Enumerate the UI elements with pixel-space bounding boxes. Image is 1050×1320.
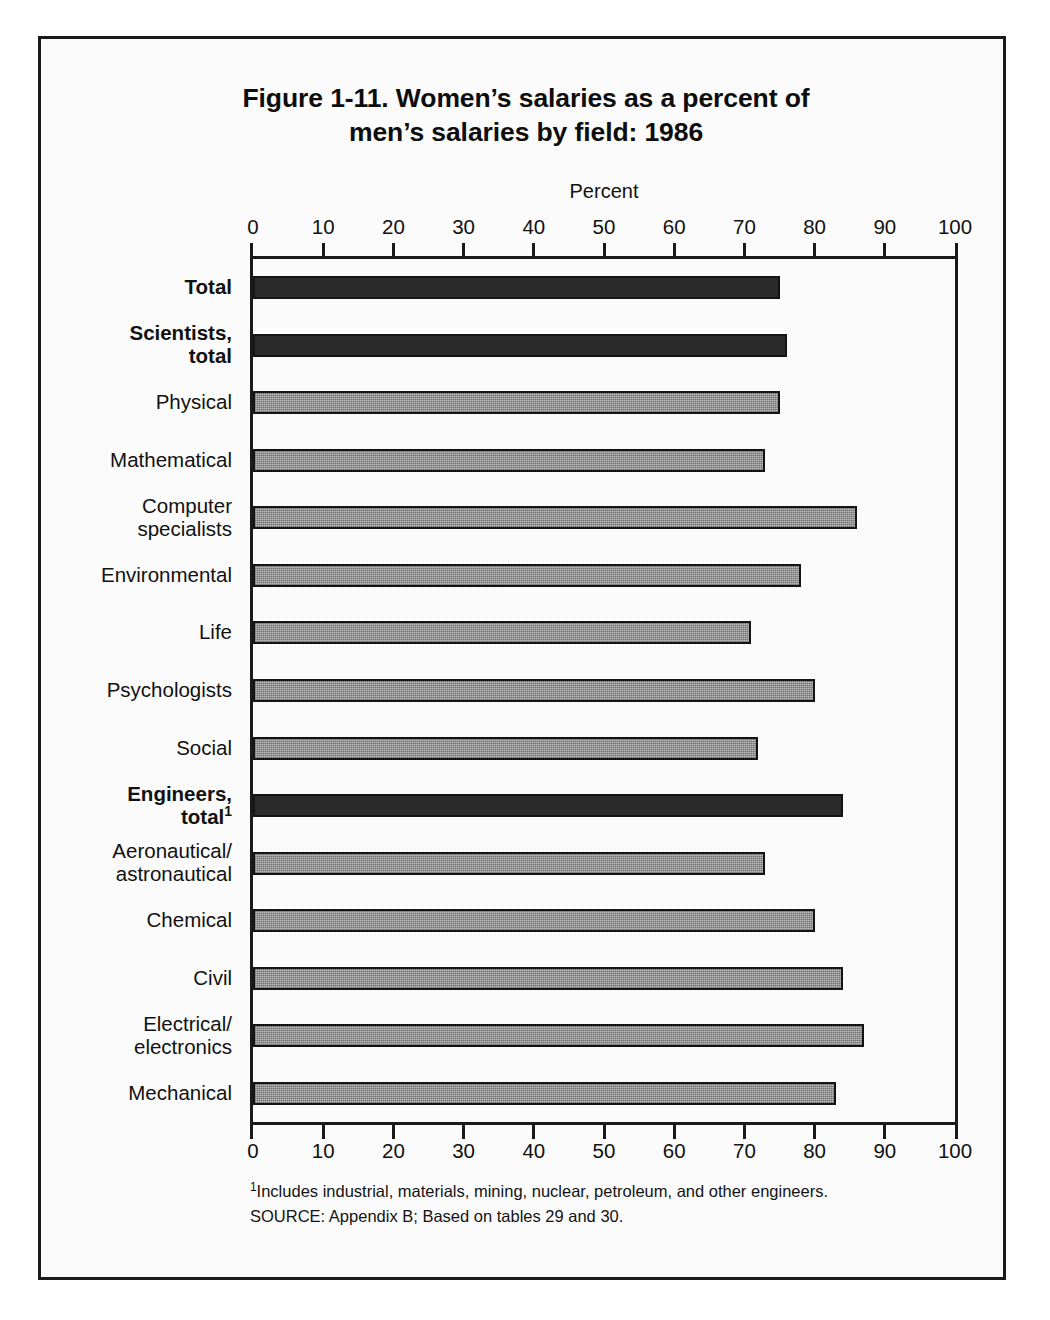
x-axis-tick-label: 80 <box>803 1139 826 1163</box>
figure-title-line-1: Figure 1-11. Women’s salaries as a perce… <box>101 81 951 115</box>
x-axis-tick-label: 0 <box>247 215 258 239</box>
bar-electrical-electronics <box>253 1024 864 1047</box>
bar-computer-specialists <box>253 506 857 529</box>
x-axis-tick-label: 10 <box>312 1139 335 1163</box>
x-axis-tick <box>532 1125 535 1139</box>
footnotes: 1Includes industrial, materials, mining,… <box>250 1179 990 1229</box>
bar-psychologists <box>253 679 815 702</box>
x-axis-tick-label: 80 <box>803 215 826 239</box>
category-label-electrical-electronics: Electrical/electronics <box>134 1013 232 1059</box>
category-label-line: Scientists, <box>129 322 232 345</box>
category-label-total: Total <box>185 276 232 299</box>
x-axis-tick <box>813 1125 816 1139</box>
category-label-line: Environmental <box>101 564 232 587</box>
footnote-text: Includes industrial, materials, mining, … <box>257 1182 828 1200</box>
bar-civil <box>253 967 843 990</box>
x-axis-tick-label: 30 <box>452 1139 475 1163</box>
category-label-line: Total <box>185 276 232 299</box>
x-axis-tick-label: 20 <box>382 1139 405 1163</box>
category-label-line: Chemical <box>147 909 232 932</box>
category-label-psychologists: Psychologists <box>107 679 232 702</box>
footnote-marker: 1 <box>250 1180 257 1194</box>
x-axis-unit-label: Percent <box>250 180 958 203</box>
x-axis-tick <box>743 1125 746 1139</box>
figure-title: Figure 1-11. Women’s salaries as a perce… <box>101 81 951 150</box>
x-axis-tick-labels-bottom: 0102030405060708090100 <box>250 1139 958 1165</box>
category-label-line: Computer <box>137 495 232 518</box>
bar-mechanical <box>253 1082 836 1105</box>
category-label-line: specialists <box>137 518 232 541</box>
category-label-engineers-total: Engineers,total1 <box>127 783 232 829</box>
x-axis-tick <box>955 1125 958 1139</box>
category-label-mechanical: Mechanical <box>128 1082 232 1105</box>
figure-border: Figure 1-11. Women’s salaries as a perce… <box>38 36 1006 1280</box>
x-axis-tick <box>955 243 958 257</box>
category-label-line: Life <box>199 621 232 644</box>
x-axis-tick-label: 50 <box>593 215 616 239</box>
x-axis-tick <box>250 1125 253 1139</box>
x-axis-tick-label: 70 <box>733 1139 756 1163</box>
category-label-social: Social <box>176 737 232 760</box>
category-label-scientists-total: Scientists,total <box>129 322 232 368</box>
x-axis-tick <box>392 1125 395 1139</box>
category-label-line: Civil <box>193 967 232 990</box>
x-axis-tick <box>392 243 395 257</box>
bar-engineers-total <box>253 794 843 817</box>
x-axis-tick <box>813 243 816 257</box>
bar-environmental <box>253 564 801 587</box>
x-axis-tick-label: 40 <box>522 215 545 239</box>
x-axis-tick <box>673 243 676 257</box>
x-axis-tick <box>462 243 465 257</box>
bar-scientists-total <box>253 334 787 357</box>
category-label-chemical: Chemical <box>147 909 232 932</box>
category-label-aeronautical-astronautical: Aeronautical/astronautical <box>112 840 232 886</box>
category-label-line: total1 <box>127 806 232 829</box>
x-axis-tick-label: 70 <box>733 215 756 239</box>
x-axis-tick <box>603 243 606 257</box>
category-label-line: Mechanical <box>128 1082 232 1105</box>
x-axis-tick <box>532 243 535 257</box>
category-label-civil: Civil <box>193 967 232 990</box>
x-axis-tick-label: 50 <box>593 1139 616 1163</box>
x-axis-tick-label: 60 <box>663 215 686 239</box>
category-label-line: Psychologists <box>107 679 232 702</box>
bar-total <box>253 276 780 299</box>
category-label-line: total <box>129 345 232 368</box>
x-axis-tick-label: 20 <box>382 215 405 239</box>
bar-physical <box>253 391 780 414</box>
bar-life <box>253 621 751 644</box>
source-note: SOURCE: Appendix B; Based on tables 29 a… <box>250 1204 990 1229</box>
x-axis-tick <box>462 1125 465 1139</box>
category-label-line: Engineers, <box>127 783 232 806</box>
x-axis-tick-label: 60 <box>663 1139 686 1163</box>
x-axis-tick-label: 90 <box>873 215 896 239</box>
x-axis-tick-label: 10 <box>312 215 335 239</box>
bar-chemical <box>253 909 815 932</box>
category-label-superscript: 1 <box>224 803 232 819</box>
category-label-line: electronics <box>134 1036 232 1059</box>
x-axis-tick-label: 0 <box>247 1139 258 1163</box>
category-label-line: astronautical <box>112 863 232 886</box>
bar-social <box>253 737 758 760</box>
x-axis-tick <box>603 1125 606 1139</box>
x-axis-tick <box>883 1125 886 1139</box>
bar-aeronautical-astronautical <box>253 852 765 875</box>
x-axis-tick <box>250 243 253 257</box>
x-axis-tick-label: 100 <box>938 215 972 239</box>
category-label-life: Life <box>199 621 232 644</box>
category-label-line: Aeronautical/ <box>112 840 232 863</box>
x-axis-tick-labels-top: 0102030405060708090100 <box>250 215 958 241</box>
category-label-line: Physical <box>156 391 232 414</box>
category-label-line: Electrical/ <box>134 1013 232 1036</box>
plot-area <box>250 256 958 1125</box>
category-label-environmental: Environmental <box>101 564 232 587</box>
x-axis-tick-label: 30 <box>452 215 475 239</box>
bar-mathematical <box>253 449 765 472</box>
category-label-physical: Physical <box>156 391 232 414</box>
x-axis-tick-label: 100 <box>938 1139 972 1163</box>
y-axis-category-labels: TotalScientists,totalPhysicalMathematica… <box>41 256 241 1125</box>
category-label-line: Mathematical <box>110 449 232 472</box>
category-label-mathematical: Mathematical <box>110 449 232 472</box>
figure-title-line-2: men’s salaries by field: 1986 <box>101 115 951 149</box>
x-axis-tick <box>883 243 886 257</box>
